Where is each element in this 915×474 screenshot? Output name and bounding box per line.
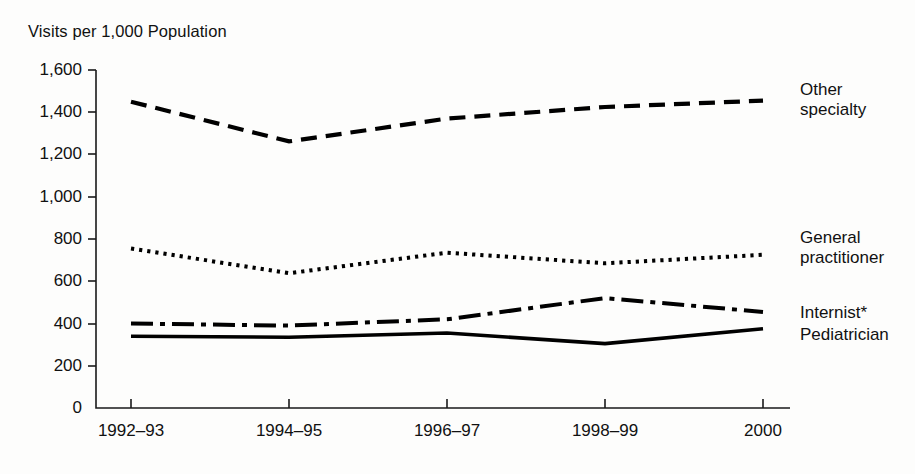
series-label-general-practitioner-line1: General — [800, 228, 884, 248]
y-tickmarks — [88, 70, 96, 366]
series-line-pediatrician — [131, 329, 763, 344]
x-tick-1992-93: 1992–93 — [98, 421, 164, 441]
series-label-internist: Internist* — [800, 303, 867, 323]
chart-container: Visits per 1,000 Population 1,600 1,400 … — [0, 0, 915, 474]
series-label-general-practitioner-line2: practitioner — [800, 248, 884, 268]
series-line-general-practitioner — [131, 249, 763, 274]
x-tick-1998-99: 1998–99 — [572, 421, 638, 441]
series-label-pediatrician: Pediatrician — [800, 325, 889, 345]
axis-lines — [96, 70, 790, 408]
series-line-other-specialty — [131, 101, 763, 142]
series-label-other-specialty-line1: Other — [800, 80, 866, 100]
x-tickmarks — [131, 399, 763, 408]
series-line-internist — [131, 298, 763, 326]
series-label-general-practitioner: General practitioner — [800, 228, 884, 268]
x-tick-1996-97: 1996–97 — [414, 421, 480, 441]
plot-area — [0, 0, 915, 474]
series-label-other-specialty-line2: specialty — [800, 100, 866, 120]
series-label-other-specialty: Other specialty — [800, 80, 866, 120]
x-tick-2000: 2000 — [744, 421, 782, 441]
x-tick-1994-95: 1994–95 — [256, 421, 322, 441]
